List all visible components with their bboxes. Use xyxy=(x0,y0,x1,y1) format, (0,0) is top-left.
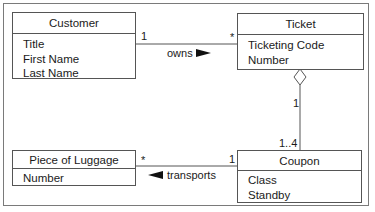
class-name: Coupon xyxy=(238,151,361,171)
attribute: Ticketing Code xyxy=(248,38,363,53)
owns-multiplicity-ticket: * xyxy=(230,31,234,43)
aggregation-diamond-icon xyxy=(294,69,306,85)
transports-multiplicity-luggage: * xyxy=(141,154,145,166)
attribute: Class xyxy=(248,173,361,188)
class-name: Customer xyxy=(13,13,135,34)
attribute: Standby xyxy=(248,188,361,203)
attribute: Title xyxy=(23,37,135,52)
class-name: Piece of Luggage xyxy=(13,151,135,169)
class-ticket[interactable]: Ticket Ticketing Code Number xyxy=(237,13,364,70)
attribute: Number xyxy=(23,171,135,186)
transports-label: transports xyxy=(167,169,216,181)
class-name: Ticket xyxy=(238,14,363,35)
aggregation-multiplicity-coupon: 1..4 xyxy=(279,137,297,149)
transports-multiplicity-coupon: 1 xyxy=(229,153,235,165)
attribute: Number xyxy=(248,53,363,68)
owns-multiplicity-customer: 1 xyxy=(141,30,147,42)
transports-direction-arrow-icon xyxy=(148,171,163,179)
class-piece-of-luggage[interactable]: Piece of Luggage Number xyxy=(12,150,136,186)
class-customer[interactable]: Customer Title First Name Last Name xyxy=(12,12,136,79)
attribute: First Name xyxy=(23,52,135,67)
aggregation-multiplicity-ticket: 1 xyxy=(293,97,299,109)
class-attributes: Ticketing Code Number xyxy=(238,35,363,67)
owns-direction-arrow-icon xyxy=(196,49,211,57)
class-attributes: Title First Name Last Name xyxy=(13,34,135,81)
class-coupon[interactable]: Coupon Class Standby xyxy=(237,150,362,203)
attribute: Last Name xyxy=(23,66,135,81)
owns-label: owns xyxy=(167,47,193,59)
class-attributes: Number xyxy=(13,169,135,186)
class-attributes: Class Standby xyxy=(238,171,361,202)
